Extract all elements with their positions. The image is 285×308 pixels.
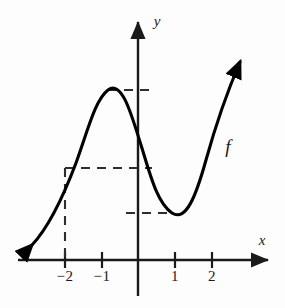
x-axis-label: x [259,232,266,249]
x-tick-label-pos2: 2 [208,268,216,285]
function-curve [32,62,240,245]
graph-canvas [0,0,285,308]
dashed-guides [65,90,174,259]
x-tick-label-pos1: 1 [171,268,179,285]
y-axis-label: y [154,13,161,30]
x-tick-label-neg2: −2 [57,268,74,285]
curve-label-f: f [225,136,230,158]
x-tick-label-neg1: −1 [94,268,111,285]
function-graph-figure: −2 −1 1 2 y x f [0,0,285,308]
